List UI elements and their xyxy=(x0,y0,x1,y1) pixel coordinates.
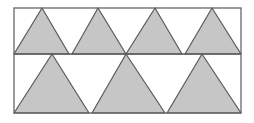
top-row-triangle-3 xyxy=(126,8,182,54)
triangles-layer xyxy=(14,8,241,113)
bottom-row-triangle-2 xyxy=(92,54,165,113)
top-row-triangle-2 xyxy=(72,8,126,54)
top-row-triangle-1 xyxy=(14,8,69,54)
top-row-triangle-4 xyxy=(185,8,241,54)
bottom-row-triangle-1 xyxy=(14,54,89,113)
triangles-diagram xyxy=(0,0,254,123)
bottom-row-triangle-3 xyxy=(167,54,241,113)
